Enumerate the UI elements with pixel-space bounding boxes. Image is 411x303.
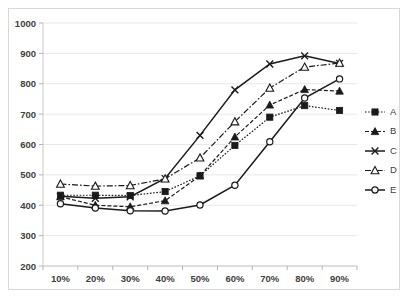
legend-marker-a: [372, 109, 378, 115]
data-point-c-50pct: [197, 132, 204, 139]
data-point-d-70pct: [266, 84, 274, 91]
y-axis-tick-label: 900: [20, 48, 36, 59]
data-point-e-80pct: [302, 95, 308, 101]
y-axis-tick-label: 300: [20, 230, 36, 241]
y-axis-tick-label: 500: [20, 169, 36, 180]
series-line-a: [60, 106, 339, 196]
legend-item-b[interactable]: B: [365, 125, 396, 136]
x-axis-tick-label: 80%: [295, 273, 315, 284]
data-point-c-60pct: [231, 86, 238, 93]
x-axis-tick-label: 10%: [51, 273, 71, 284]
y-axis-tick-label: 1000: [15, 18, 36, 29]
y-axis-tick-label: 800: [20, 78, 36, 89]
data-point-a-90pct: [336, 107, 342, 113]
legend-item-a[interactable]: A: [365, 106, 397, 117]
legend-label-c: C: [390, 145, 397, 156]
x-axis-tick-label: 20%: [86, 273, 106, 284]
x-axis-tick-label: 70%: [260, 273, 280, 284]
legend-marker-e: [372, 187, 378, 193]
data-point-e-10pct: [57, 201, 63, 207]
y-axis-tick-label: 600: [20, 139, 36, 150]
series-lines: [60, 56, 339, 211]
legend-item-c[interactable]: C: [365, 145, 397, 156]
chart-container: 2003004005006007008009001000 10%20%30%40…: [8, 8, 400, 290]
data-point-b-70pct: [266, 101, 274, 108]
x-axis-tick-label: 90%: [330, 273, 350, 284]
legend-label-d: D: [390, 164, 397, 175]
data-point-e-30pct: [127, 208, 133, 214]
legend-item-e[interactable]: E: [365, 184, 396, 195]
data-point-a-80pct: [302, 103, 308, 109]
data-point-e-20pct: [92, 205, 98, 211]
axes: [39, 23, 357, 270]
data-point-e-50pct: [197, 202, 203, 208]
line-chart: 2003004005006007008009001000 10%20%30%40…: [9, 9, 401, 291]
data-point-e-70pct: [267, 139, 273, 145]
series-line-d: [60, 63, 339, 186]
series-markers: [57, 52, 344, 214]
legend-label-a: A: [390, 106, 397, 117]
x-axis-tick-labels: 10%20%30%40%50%60%70%80%90%: [51, 273, 350, 284]
legend-item-d[interactable]: D: [365, 164, 397, 175]
legend-label-b: B: [390, 125, 396, 136]
x-axis-tick-label: 50%: [190, 273, 210, 284]
data-point-b-40pct: [161, 197, 169, 204]
y-axis-tick-label: 200: [20, 261, 36, 272]
data-point-a-70pct: [267, 114, 273, 120]
data-point-d-80pct: [301, 63, 309, 70]
y-axis-tick-label: 700: [20, 109, 36, 120]
x-axis-tick-label: 60%: [225, 273, 245, 284]
data-point-a-60pct: [232, 142, 238, 148]
data-point-e-40pct: [162, 208, 168, 214]
gridlines: [43, 23, 357, 266]
data-point-e-60pct: [232, 182, 238, 188]
chart-legend: ABCDE: [365, 106, 397, 195]
y-axis-tick-label: 400: [20, 200, 36, 211]
data-point-d-50pct: [196, 154, 204, 161]
y-axis-tick-labels: 2003004005006007008009001000: [15, 18, 36, 272]
x-axis-tick-label: 30%: [121, 273, 141, 284]
data-point-e-90pct: [336, 76, 342, 82]
x-axis-tick-label: 40%: [156, 273, 176, 284]
legend-label-e: E: [390, 184, 396, 195]
data-point-a-40pct: [162, 188, 168, 194]
